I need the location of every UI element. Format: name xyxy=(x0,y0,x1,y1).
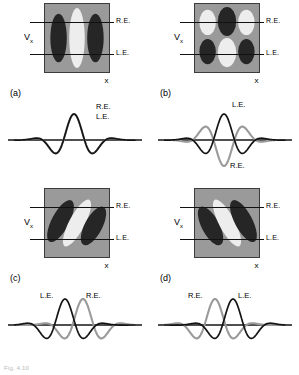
response-curve-svg-a: R.E.L.E. xyxy=(0,96,149,182)
right-eye-response-curve xyxy=(14,114,136,153)
right-eye-response-curve xyxy=(164,127,286,166)
receptive-field-svg-b xyxy=(195,4,259,72)
curve-label-bottom: R.E. xyxy=(86,291,101,300)
left-eye-label-c: L.E. xyxy=(116,234,129,242)
response-curve-svg-c: L.E.R.E. xyxy=(0,281,149,367)
response-curve-svg-b: L.E.R.E. xyxy=(150,96,299,182)
response-curve-c: L.E.R.E. xyxy=(0,281,149,367)
left-eye-line-b xyxy=(180,54,264,55)
velocity-axis-label-c: Vx xyxy=(24,218,33,231)
x-axis-label-a: x xyxy=(0,76,149,85)
right-eye-label-b: R.E. xyxy=(266,17,280,25)
rf-subregion-light xyxy=(218,38,236,67)
left-eye-label-b: L.E. xyxy=(266,49,279,57)
left-eye-line-a xyxy=(30,54,114,55)
left-eye-line-d xyxy=(180,239,264,240)
right-eye-label-c: R.E. xyxy=(116,202,130,210)
x-axis-label-c: x xyxy=(0,261,149,270)
right-eye-line-b xyxy=(180,22,264,23)
velocity-axis-label-d: Vx xyxy=(174,218,183,231)
right-eye-line-d xyxy=(180,207,264,208)
left-eye-line-c xyxy=(30,239,114,240)
right-eye-label-d: R.E. xyxy=(266,202,280,210)
receptive-field-map-d: R.E. L.E. Vx x xyxy=(150,185,299,285)
receptive-field-svg-c xyxy=(45,189,109,257)
curve-label-top: L.E. xyxy=(40,291,53,300)
curve-label-top: R.E. xyxy=(188,291,203,300)
receptive-field-map-a: R.E. L.E. Vx x xyxy=(0,0,149,100)
figure-binocular-receptive-fields: R.E. L.E. Vx x (a) R.E.L.E. R.E. L.E. Vx… xyxy=(0,0,299,375)
curve-label-top: R.E. xyxy=(96,102,111,111)
left-eye-response-curve xyxy=(164,114,286,153)
x-axis-label-b: x xyxy=(150,76,299,85)
response-curve-svg-d: R.E.L.E. xyxy=(150,281,299,367)
figure-caption: Fig. 4.10 xyxy=(4,365,29,371)
velocity-axis-subscript-c: x xyxy=(30,223,33,229)
left-eye-label-d: L.E. xyxy=(266,234,279,242)
curve-label-bottom: L.E. xyxy=(238,291,251,300)
receptive-field-box-a xyxy=(44,3,110,73)
receptive-field-svg-d xyxy=(195,189,259,257)
velocity-axis-subscript-a: x xyxy=(30,38,33,44)
receptive-field-box-c xyxy=(44,188,110,258)
panel-a: R.E. L.E. Vx x (a) R.E.L.E. xyxy=(0,0,149,185)
receptive-field-svg-a xyxy=(45,4,109,72)
velocity-axis-label-b: Vx xyxy=(174,33,183,46)
receptive-field-box-d xyxy=(194,188,260,258)
left-eye-response-curve xyxy=(14,114,136,153)
right-eye-line-c xyxy=(30,207,114,208)
left-eye-response-curve xyxy=(164,299,286,338)
panel-c: R.E. L.E. Vx x (c) L.E.R.E. xyxy=(0,185,149,370)
left-eye-label-a: L.E. xyxy=(116,49,129,57)
curve-label-top: L.E. xyxy=(232,100,245,109)
rf-subregion-dark xyxy=(199,39,215,64)
panel-d: R.E. L.E. Vx x (d) R.E.L.E. xyxy=(150,185,299,370)
rf-subregion-dark xyxy=(50,14,66,63)
response-curve-b: L.E.R.E. xyxy=(150,96,299,182)
response-curve-d: R.E.L.E. xyxy=(150,281,299,367)
panel-b: R.E. L.E. Vx x (b) L.E.R.E. xyxy=(150,0,299,185)
curve-label-bottom: L.E. xyxy=(96,112,109,121)
right-eye-label-a: R.E. xyxy=(116,17,130,25)
velocity-axis-label-a: Vx xyxy=(24,33,33,46)
rf-subregion-dark xyxy=(87,14,103,63)
rf-subregion-light xyxy=(69,8,85,68)
response-curve-a: R.E.L.E. xyxy=(0,96,149,182)
rf-subregion-dark xyxy=(238,39,254,64)
velocity-axis-subscript-b: x xyxy=(180,38,183,44)
right-eye-response-curve xyxy=(14,299,136,338)
x-axis-label-d: x xyxy=(150,261,299,270)
curve-label-bottom: R.E. xyxy=(230,161,245,170)
receptive-field-box-b xyxy=(194,3,260,73)
receptive-field-map-c: R.E. L.E. Vx x xyxy=(0,185,149,285)
right-eye-line-a xyxy=(30,22,114,23)
velocity-axis-subscript-d: x xyxy=(180,223,183,229)
receptive-field-map-b: R.E. L.E. Vx x xyxy=(150,0,299,100)
